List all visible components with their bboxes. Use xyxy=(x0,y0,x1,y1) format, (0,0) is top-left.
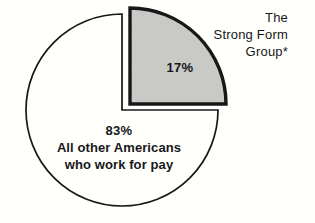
callout-line-3: Group* xyxy=(214,44,288,61)
major-slice-line-2: All other Americans xyxy=(0,140,238,157)
pie-chart: The Strong Form Group* 17% 83% All other… xyxy=(0,0,315,223)
callout-line-1: The xyxy=(214,10,288,27)
major-slice-label: 83% All other Americans who work for pay xyxy=(0,123,238,174)
pie-slice-minor[interactable] xyxy=(130,8,226,104)
minor-slice-value-label: 17% xyxy=(157,60,203,77)
major-slice-value-label: 83% xyxy=(0,123,238,140)
callout-line-2: Strong Form xyxy=(214,27,288,44)
minor-slice-callout-label: The Strong Form Group* xyxy=(214,10,288,61)
major-slice-line-3: who work for pay xyxy=(0,157,238,174)
